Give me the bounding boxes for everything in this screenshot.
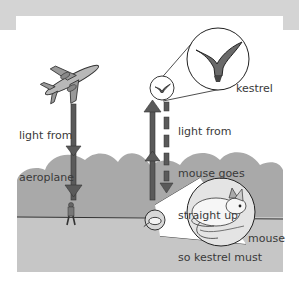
label-line: so kestrel must <box>178 251 262 265</box>
label-line: aeroplane <box>19 171 74 185</box>
label-line: light from <box>178 125 262 139</box>
kestrel-label: kestrel <box>236 82 273 96</box>
aeroplane-light-label: light from aeroplane <box>19 101 74 199</box>
mouse-light-label: light from mouse goes straight up so kes… <box>178 97 262 290</box>
mouse-label: mouse <box>248 232 285 246</box>
label-line: straight up <box>178 209 262 223</box>
label-line: mouse goes <box>178 167 262 181</box>
kestrel-small-circle <box>150 76 174 100</box>
label-line: light from <box>19 129 74 143</box>
